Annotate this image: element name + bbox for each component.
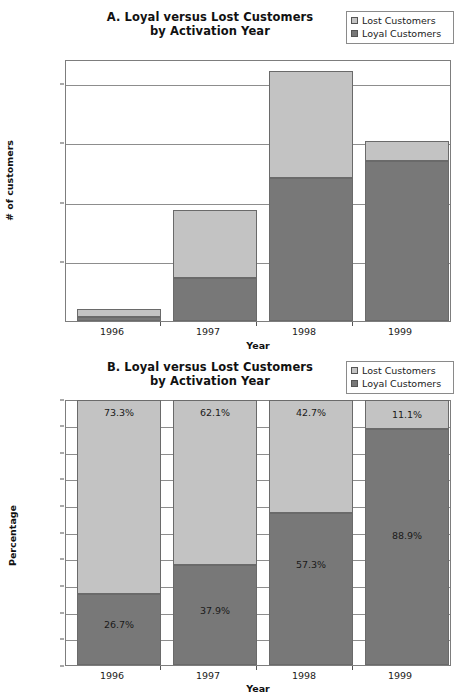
chart-a-plot-inner xyxy=(66,61,450,321)
chart-b-xtick-mark xyxy=(352,666,353,670)
chart-b-ytick-mark xyxy=(60,639,64,640)
bar-group-1996[interactable]: 73.3% 26.7% xyxy=(77,400,161,665)
bar-segment-lost[interactable] xyxy=(173,210,257,278)
legend-item-loyal-customers: Loyal Customers xyxy=(351,377,448,390)
chart-a-ytick-mark xyxy=(60,203,64,204)
legend-item-lost-customers: Lost Customers xyxy=(351,14,448,27)
chart-a-legend: Lost Customers Loyal Customers xyxy=(346,11,454,44)
chart-a-xtick-mark xyxy=(160,322,161,326)
bar-segment-lost[interactable] xyxy=(365,141,449,161)
bar-label-lost: 42.7% xyxy=(270,407,352,418)
legend-label-lost: Lost Customers xyxy=(362,365,436,376)
chart-b-ytick-mark xyxy=(60,533,64,534)
chart-a-xtick-label: 1997 xyxy=(166,326,250,337)
chart-a-ytick-mark xyxy=(60,262,64,263)
legend-swatch-lost-icon xyxy=(351,367,358,374)
bar-group-1999[interactable]: 11.1% 88.9% xyxy=(365,400,449,665)
chart-b-legend: Lost Customers Loyal Customers xyxy=(346,361,454,394)
bar-label-loyal: 26.7% xyxy=(78,619,160,630)
chart-b-xtick-label: 1997 xyxy=(166,670,250,681)
gridline xyxy=(66,85,450,86)
bar-segment-loyal[interactable] xyxy=(365,161,449,321)
chart-a-xtick-label: 1998 xyxy=(262,326,346,337)
chart-b-ytick-mark xyxy=(60,559,64,560)
chart-a-xtick-label: 1999 xyxy=(358,326,442,337)
bar-segment-loyal[interactable] xyxy=(173,278,257,321)
bar-group-1997[interactable]: 62.1% 37.9% xyxy=(173,400,257,665)
bar-label-lost: 11.1% xyxy=(366,409,448,420)
bar-segment-loyal[interactable]: 88.9% xyxy=(365,429,449,665)
bar-label-loyal: 88.9% xyxy=(366,530,448,541)
bar-segment-loyal[interactable] xyxy=(269,178,353,321)
chart-b-ytick-mark xyxy=(60,613,64,614)
chart-a-x-axis-title: Year xyxy=(65,340,451,351)
chart-a-title: A. Loyal versus Lost Customers by Activa… xyxy=(60,10,360,38)
chart-b-xtick-mark xyxy=(256,666,257,670)
chart-b-xtick-label: 1998 xyxy=(262,670,346,681)
chart-b-title: B. Loyal versus Lost Customers by Activa… xyxy=(60,360,360,388)
bar-group-1998[interactable]: 42.7% 57.3% xyxy=(269,400,353,665)
bar-segment-lost[interactable]: 11.1% xyxy=(365,400,449,429)
chart-a-ytick-mark xyxy=(60,84,64,85)
chart-b-ytick-mark xyxy=(60,426,64,427)
chart-a-title-line1: A. Loyal versus Lost Customers xyxy=(60,10,360,24)
chart-b-title-line1: B. Loyal versus Lost Customers xyxy=(60,360,360,374)
chart-a-xtick-mark xyxy=(256,322,257,326)
legend-label-loyal: Loyal Customers xyxy=(362,378,441,389)
bar-segment-lost[interactable]: 62.1% xyxy=(173,400,257,565)
bar-segment-lost[interactable]: 73.3% xyxy=(77,400,161,594)
chart-a-plot-area xyxy=(65,60,451,322)
chart-b-ytick-mark xyxy=(60,666,64,667)
legend-swatch-loyal-icon xyxy=(351,380,358,387)
bar-group-1997[interactable] xyxy=(173,210,257,321)
legend-swatch-loyal-icon xyxy=(351,30,358,37)
bar-label-loyal: 37.9% xyxy=(174,605,256,616)
bar-segment-loyal[interactable]: 26.7% xyxy=(77,594,161,665)
chart-b-xtick-label: 1999 xyxy=(358,670,442,681)
legend-item-lost-customers: Lost Customers xyxy=(351,364,448,377)
bar-label-loyal: 57.3% xyxy=(270,559,352,570)
bar-group-1996[interactable] xyxy=(77,309,161,321)
bar-segment-loyal[interactable]: 37.9% xyxy=(173,565,257,665)
chart-b-ytick-mark xyxy=(60,586,64,587)
bar-segment-lost[interactable] xyxy=(269,71,353,178)
bar-label-lost: 62.1% xyxy=(174,407,256,418)
bar-group-1998[interactable] xyxy=(269,71,353,321)
chart-a-ytick-mark xyxy=(60,143,64,144)
chart-a-xtick-label: 1996 xyxy=(70,326,154,337)
chart-b-plot-area: 73.3% 26.7% 62.1% 37.9% 42.7% xyxy=(65,400,451,666)
bar-segment-loyal[interactable]: 57.3% xyxy=(269,513,353,665)
chart-b-xtick-mark xyxy=(160,666,161,670)
bar-segment-lost[interactable] xyxy=(77,309,161,317)
chart-b-ytick-mark xyxy=(60,479,64,480)
chart-b-ytick-mark xyxy=(60,400,64,401)
chart-b-xtick-label: 1996 xyxy=(70,670,154,681)
bar-group-1999[interactable] xyxy=(365,141,449,321)
chart-b-title-line2: by Activation Year xyxy=(60,374,360,388)
chart-a-y-axis-title: # of customers xyxy=(4,136,15,226)
chart-b-plot-inner: 73.3% 26.7% 62.1% 37.9% 42.7% xyxy=(66,401,450,665)
legend-label-lost: Lost Customers xyxy=(362,15,436,26)
legend-label-loyal: Loyal Customers xyxy=(362,28,441,39)
bar-segment-lost[interactable]: 42.7% xyxy=(269,400,353,513)
chart-b-ytick-mark xyxy=(60,453,64,454)
chart-a-xtick-mark xyxy=(352,322,353,326)
chart-b-ytick-mark xyxy=(60,506,64,507)
legend-item-loyal-customers: Loyal Customers xyxy=(351,27,448,40)
bar-segment-loyal[interactable] xyxy=(77,317,161,321)
chart-b-y-axis-title: Percentage xyxy=(7,491,18,581)
bar-label-lost: 73.3% xyxy=(78,407,160,418)
legend-swatch-lost-icon xyxy=(351,17,358,24)
chart-a-title-line2: by Activation Year xyxy=(60,24,360,38)
chart-b-x-axis-title: Year xyxy=(65,683,451,694)
